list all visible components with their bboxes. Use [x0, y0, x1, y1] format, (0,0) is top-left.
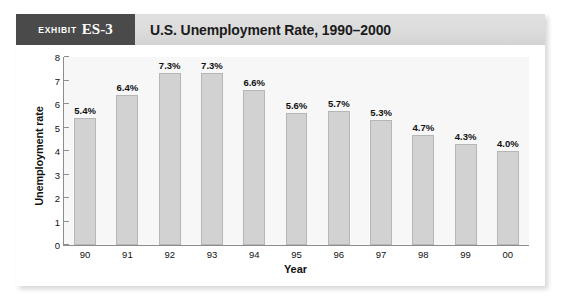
x-tick-label: 91: [122, 249, 133, 260]
y-tick: 0: [64, 244, 69, 245]
x-tick-label: 92: [164, 249, 175, 260]
bar[interactable]: [116, 95, 138, 245]
y-tick-label: 3: [55, 169, 60, 180]
bar-column[interactable]: 5.3%97: [370, 120, 392, 245]
bar-value-label: 4.7%: [412, 122, 434, 133]
bar-value-label: 5.7%: [328, 98, 350, 109]
exhibit-card: Exhibit ES-3 U.S. Unemployment Rate, 199…: [16, 14, 545, 286]
bar-value-label: 6.4%: [117, 82, 139, 93]
bar[interactable]: [370, 120, 392, 245]
y-tick: 4: [64, 150, 69, 151]
y-tick: 7: [64, 80, 69, 81]
y-tick: 5: [64, 127, 69, 128]
bar[interactable]: [74, 118, 96, 245]
x-tick-label: 98: [418, 249, 429, 260]
y-tick-label: 6: [55, 99, 60, 110]
bar-value-label: 4.0%: [497, 138, 519, 149]
y-tick-label: 1: [55, 216, 60, 227]
x-tick-label: 95: [291, 249, 302, 260]
bar[interactable]: [159, 73, 181, 245]
bar-column[interactable]: 6.6%94: [243, 90, 265, 245]
bar-column[interactable]: 4.7%98: [412, 135, 434, 245]
x-tick-label: 96: [333, 249, 344, 260]
x-tick-label: 97: [376, 249, 387, 260]
x-tick-label: 94: [249, 249, 260, 260]
y-tick-label: 7: [55, 75, 60, 86]
y-tick-label: 5: [55, 122, 60, 133]
y-tick: 6: [64, 103, 69, 104]
y-tick-label: 0: [55, 240, 60, 251]
y-tick-label: 8: [55, 52, 60, 63]
y-tick: 3: [64, 174, 69, 175]
exhibit-badge-word: Exhibit: [38, 24, 76, 35]
bar-column[interactable]: 7.3%93: [201, 73, 223, 245]
y-axis-title: Unemployment rate: [33, 86, 45, 226]
x-tick-label: 90: [80, 249, 91, 260]
bar[interactable]: [328, 111, 350, 245]
bar[interactable]: [497, 151, 519, 245]
bar-value-label: 7.3%: [159, 60, 181, 71]
bar[interactable]: [243, 90, 265, 245]
plot-area: 012345678 5.4%906.4%917.3%927.3%936.6%94…: [63, 57, 529, 246]
bar[interactable]: [455, 144, 477, 245]
y-tick: 1: [64, 221, 69, 222]
chart-body: Unemployment rate 012345678 5.4%906.4%91…: [16, 45, 545, 286]
y-tick: 2: [64, 197, 69, 198]
y-tick: 8: [64, 56, 69, 57]
x-axis-title: Year: [63, 263, 528, 275]
bar-column[interactable]: 7.3%92: [159, 73, 181, 245]
y-tick-label: 4: [55, 146, 60, 157]
exhibit-badge: Exhibit ES-3: [16, 14, 135, 45]
bar-value-label: 6.6%: [243, 77, 265, 88]
exhibit-title: U.S. Unemployment Rate, 1990–2000: [135, 14, 545, 45]
bar-value-label: 5.4%: [74, 105, 96, 116]
bar[interactable]: [412, 135, 434, 245]
x-tick-label: 93: [207, 249, 218, 260]
x-tick-label: 00: [503, 249, 514, 260]
y-tick-label: 2: [55, 193, 60, 204]
bar-value-label: 4.3%: [455, 131, 477, 142]
bar-value-label: 5.6%: [286, 100, 308, 111]
exhibit-badge-number: ES-3: [82, 22, 113, 37]
bar[interactable]: [201, 73, 223, 245]
bar-value-label: 7.3%: [201, 60, 223, 71]
bar-column[interactable]: 5.4%90: [74, 118, 96, 245]
bar-column[interactable]: 6.4%91: [116, 95, 138, 245]
exhibit-header: Exhibit ES-3 U.S. Unemployment Rate, 199…: [16, 14, 545, 45]
bar-column[interactable]: 4.0%00: [497, 151, 519, 245]
x-tick-label: 99: [460, 249, 471, 260]
bar-column[interactable]: 4.3%99: [455, 144, 477, 245]
bar[interactable]: [286, 113, 308, 245]
bar-column[interactable]: 5.7%96: [328, 111, 350, 245]
bar-column[interactable]: 5.6%95: [286, 113, 308, 245]
bar-value-label: 5.3%: [370, 107, 392, 118]
